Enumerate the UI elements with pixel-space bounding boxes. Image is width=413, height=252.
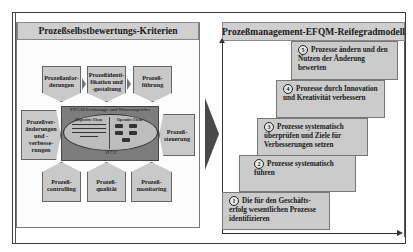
operative-level-label: Operative Ebene	[111, 118, 149, 122]
sycat-bottom-label: SYCAT	[96, 151, 126, 155]
step-text: Prozesse durch Innovation und Kreativitä…	[283, 85, 378, 102]
x-axis	[222, 233, 398, 234]
sycat-title: SYCAT-Erfahrungs- und Wissensspeicher	[61, 107, 159, 112]
step-number-badge: 1	[229, 196, 239, 206]
database-icon	[129, 131, 137, 135]
maturity-step-4: 4Prozesse durch Innovation und Kreativit…	[276, 80, 385, 118]
maturity-step-5: 5Prozesse ändern und den Nutzen der Ände…	[291, 41, 398, 80]
ellipse-divider	[109, 117, 110, 149]
dispositive-level-label: Dispositive Ebene	[70, 118, 108, 122]
step-number-badge: 2	[254, 159, 264, 169]
maturity-model-title: Prozeßmanagement-EFQM-Reifegradmodell	[222, 22, 405, 41]
text-line	[72, 124, 106, 125]
database-icon	[115, 124, 123, 128]
database-icon	[115, 131, 123, 135]
flow-arrow-icon	[127, 78, 131, 90]
step-number-badge: 4	[283, 84, 293, 94]
maturity-step-2: 2Prozesse systematisch führen	[239, 155, 356, 192]
database-icon	[129, 124, 137, 128]
criterion-steuerung: Prozeß-steuerung	[159, 114, 195, 156]
step-text: Prozesse systematisch führen	[254, 160, 334, 177]
step-text: Die für den Geschäfts-erfolg wesentliche…	[229, 197, 316, 223]
step-number-badge: 5	[298, 45, 308, 55]
self-assessment-title: Prozeßselbstbewertungs-Kriterien	[17, 22, 199, 40]
step-text: Prozesse systematisch überprüfen und Zie…	[264, 123, 344, 149]
step-text: Prozesse ändern und den Nutzen der Änder…	[298, 46, 388, 72]
text-line	[72, 128, 106, 129]
database-icon	[122, 138, 130, 142]
maturity-step-1: 1Die für den Geschäfts-erfolg wesentlich…	[222, 192, 330, 230]
criterion-veraenderungen: Prozeßver-änderungen und -verbesse-runge…	[21, 110, 61, 160]
text-line	[80, 136, 98, 137]
step-number-badge: 3	[264, 122, 274, 132]
maturity-step-3: 3Prozesse systematisch überprüfen und Zi…	[257, 118, 368, 156]
text-line	[72, 132, 106, 133]
arrow-up-icon	[219, 38, 225, 43]
flow-arrow-icon	[82, 78, 86, 90]
arrow-right-icon	[397, 230, 403, 236]
